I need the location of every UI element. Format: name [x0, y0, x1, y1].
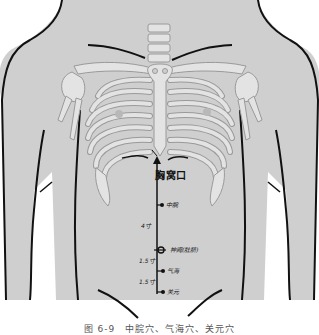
acupoint-label-zhongwan: 中脘: [166, 202, 178, 208]
right-nipple-mark: [203, 108, 211, 116]
figure-caption: 图 6-9 中脘穴、气海穴、关元穴: [0, 322, 319, 335]
distance-label-1-5cun-b: 1.5寸: [139, 279, 155, 285]
acupoint-label-qihai: 气海: [167, 268, 179, 274]
distance-label-4cun: 4寸: [141, 223, 151, 229]
acupoint-label-shenque: 神阙(肚脐): [170, 247, 199, 253]
xiphoid-label: 胸窝口: [155, 171, 187, 181]
left-nipple-mark: [115, 110, 123, 118]
distance-label-1-5cun-a: 1.5寸: [139, 258, 155, 264]
acupoint-label-guanyuan: 关元: [167, 289, 179, 295]
